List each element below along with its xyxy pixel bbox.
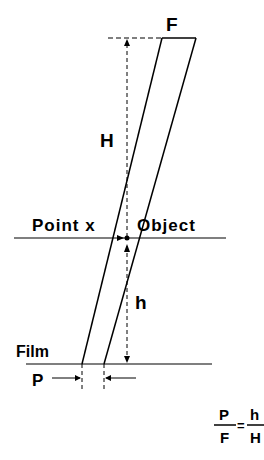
label-point-x: Point x [32, 216, 96, 235]
formula-equals: = [237, 418, 245, 433]
formula-right-denominator: H [250, 429, 261, 446]
point-x-arrow-icon [117, 235, 124, 241]
label-H: H [100, 130, 114, 151]
formula-left-numerator: P [219, 406, 229, 423]
formula-left-denominator: F [220, 429, 229, 446]
label-P: P [32, 371, 43, 390]
H-arrow-top-icon [124, 39, 130, 46]
projection-diagram: F H Point x Object h Film P P F = h H [0, 0, 264, 460]
formula: P F = h H [214, 406, 264, 446]
label-film: Film [16, 343, 49, 360]
h-arrow-bottom-icon [124, 356, 130, 363]
h-arrow-top-icon [124, 244, 130, 252]
pinhole-point [125, 236, 130, 241]
label-object: Object [137, 216, 196, 235]
formula-right-numerator: h [250, 406, 259, 423]
label-F: F [166, 14, 178, 35]
label-h: h [135, 292, 147, 313]
